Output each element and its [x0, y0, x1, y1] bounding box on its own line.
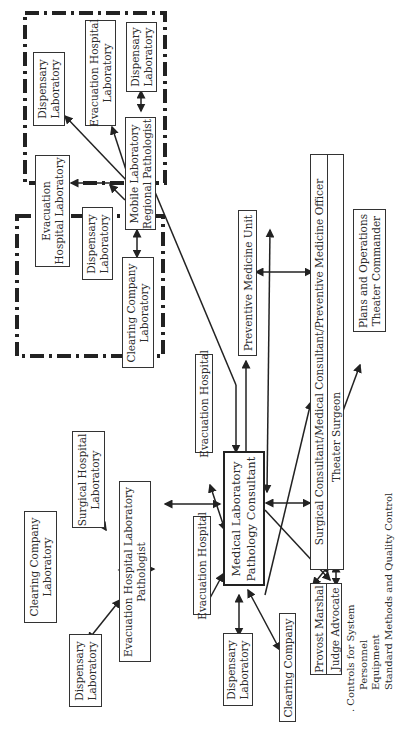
box-label: Theater Commander — [370, 213, 383, 327]
box-label: Laboratory — [138, 263, 151, 362]
box-label: Surgical Hospital — [76, 433, 89, 526]
controls-item: Standard Methods and Quality Control — [383, 493, 396, 712]
clearing-company-laboratory-box: Clearing CompanyLaboratory — [122, 257, 154, 368]
evacuation-hospital-laboratory-pathologist-box: Evacuation Hospital LaboratoryPathologis… — [119, 481, 151, 662]
dispensary-laboratory-box: DispensaryLaboratory — [33, 52, 65, 126]
organization-diagram: DispensaryLaboratory Evacuation Hospital… — [0, 0, 399, 741]
box-label: Laboratory — [98, 214, 111, 273]
box-label: Dispensary — [85, 214, 98, 273]
box-label: Pathology Consultant — [244, 456, 259, 581]
mobile-laboratory-box: Mobile LaboratoryRegional Pathologist — [125, 117, 156, 230]
box-label: Laboratory — [86, 641, 99, 700]
box-label: Laboratory — [49, 59, 62, 118]
box-label: Laboratory — [89, 433, 102, 526]
box-label: Pathologist — [135, 487, 148, 657]
controls-title: . Controls for System — [345, 493, 358, 712]
dispensary-laboratory-box: DispensaryLaboratory — [82, 207, 113, 280]
surgical-hospital-laboratory-box: Surgical HospitalLaboratory — [72, 431, 105, 528]
box-label: Hospital Laboratory — [53, 157, 66, 264]
evacuation-hospital-box: Evacuation Hospital — [193, 516, 211, 615]
plans-operations-box: Plans and OperationsTheater Commander — [353, 209, 386, 332]
box-label: Preventive Medicine Unit — [241, 215, 254, 351]
box-label: Evacuation Hospital — [88, 19, 101, 127]
box-label: Dispensary — [129, 27, 142, 86]
box-label: Regional Pathologist — [141, 119, 154, 229]
box-label: Clearing Company — [125, 263, 138, 362]
box-label: Laboratory — [101, 19, 114, 127]
dispensary-laboratory-box: DispensaryLaboratory — [69, 634, 102, 707]
box-label: Evacuation Hospital — [196, 512, 209, 620]
evacuation-hospital-box: Evacuation Hospital — [195, 354, 213, 453]
dispensary-laboratory-box: DispensaryLaboratory — [223, 633, 253, 706]
preventive-medicine-unit-box: Preventive Medicine Unit — [238, 210, 257, 356]
divider — [326, 584, 327, 674]
box-label: Medical Laboratory — [229, 456, 244, 581]
medical-laboratory-pathology-consultant-box: Medical LaboratoryPathology Consultant — [223, 451, 265, 586]
box-label: Laboratory — [142, 27, 155, 86]
evacuation-hospital-laboratory-box: EvacuationHospital Laboratory — [35, 155, 70, 267]
controls-caption: . Controls for System Personnel Equipmen… — [345, 493, 395, 712]
box-label: Evacuation Hospital Laboratory — [122, 487, 135, 657]
box-label: Dispensary — [225, 640, 238, 699]
box-label: Theater Surgeon — [330, 392, 343, 482]
box-label: Clearing Company — [28, 517, 41, 616]
box-label: Provost Marshal — [313, 585, 326, 672]
controls-item: Equipment — [370, 493, 383, 712]
clearing-company-laboratory-box: Clearing CompanyLaboratory — [24, 511, 57, 623]
divider — [327, 155, 328, 569]
provost-marshal-judge-advocate-box: Provost Marshal Judge Advocate — [310, 583, 342, 675]
box-label: Surgical Consultant/Medical Consultant/P… — [313, 179, 326, 545]
controls-item: Personnel — [358, 493, 371, 712]
dispensary-laboratory-box: DispensaryLaboratory — [126, 22, 157, 92]
evacuation-hospital-laboratory-box: Evacuation HospitalLaboratory — [85, 20, 116, 126]
clearing-company-box: Clearing Company — [279, 613, 296, 722]
box-label: Dispensary — [36, 59, 49, 118]
box-label: Plans and Operations — [357, 213, 370, 327]
box-label: Laboratory — [41, 517, 54, 616]
box-label: Judge Advocate — [329, 587, 342, 670]
box-label: Clearing Company — [281, 618, 294, 717]
box-label: Mobile Laboratory — [128, 119, 141, 229]
box-label: Dispensary — [73, 641, 86, 700]
box-label: Laboratory — [238, 640, 251, 699]
box-label: Evacuation Hospital — [198, 350, 211, 458]
box-label: Evacuation — [40, 157, 53, 264]
surgical-consultant-theater-surgeon-box: Surgical Consultant/Medical Consultant/P… — [310, 154, 344, 570]
